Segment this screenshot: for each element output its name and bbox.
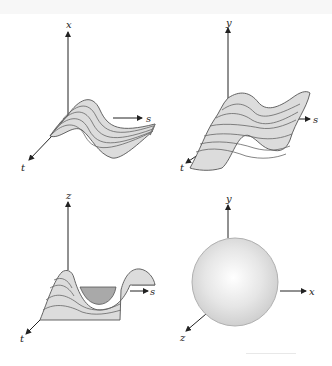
sine-surface [50,100,155,158]
label-x: x [66,20,72,30]
sphere [192,238,278,326]
panel-top-left [29,32,155,160]
label-y: y [226,194,232,204]
t-axis [26,320,40,334]
label-s: s [150,287,155,297]
wave-surface [190,92,310,171]
label-y: y [226,18,232,28]
label-s: s [146,114,151,124]
label-s: s [313,115,318,125]
panel-bottom-right [186,205,306,331]
z-axis [186,314,206,331]
label-t: t [21,163,25,173]
label-t: t [180,163,184,173]
figure-canvas [0,0,332,366]
t-axis [29,136,52,160]
label-t: t [20,334,24,344]
label-z: z [180,333,185,343]
label-z: z [66,191,71,201]
faint-rule [246,353,296,354]
panel-bottom-left [26,202,155,334]
label-x: x [309,287,315,297]
panel-top-right [186,28,310,170]
